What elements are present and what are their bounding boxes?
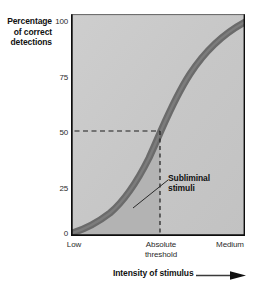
y-tick-label-100: 100 bbox=[50, 18, 68, 26]
x-tick-label-absolute-threshold-line-1: Absolute bbox=[131, 240, 191, 250]
y-tick-label-0: 0 bbox=[50, 230, 68, 238]
y-axis-title-line-2: of correct bbox=[0, 27, 52, 38]
x-tick-label-absolute-threshold-line-2: threshold bbox=[131, 250, 191, 260]
x-axis-caption: Intensity of stimulus bbox=[113, 268, 194, 278]
y-tick-label-25: 25 bbox=[50, 185, 68, 193]
psychometric-function-figure: Percentage of correct detections 100 75 … bbox=[0, 0, 259, 288]
plot-area bbox=[71, 14, 245, 236]
y-tick-label-50: 50 bbox=[50, 129, 68, 137]
x-tick-label-medium: Medium bbox=[208, 240, 252, 250]
subliminal-stimuli-line-1: Subliminal bbox=[168, 173, 210, 183]
subliminal-stimuli-line-2: stimuli bbox=[168, 183, 210, 193]
x-tick-label-low: Low bbox=[56, 240, 92, 250]
subliminal-stimuli-annotation: Subliminal stimuli bbox=[168, 173, 210, 193]
y-axis-title-line-3: detections bbox=[0, 37, 52, 48]
y-axis-title-line-1: Percentage bbox=[0, 16, 52, 27]
y-tick-label-75: 75 bbox=[50, 74, 68, 82]
y-axis-title: Percentage of correct detections bbox=[0, 16, 52, 48]
x-tick-label-absolute-threshold: Absolute threshold bbox=[131, 240, 191, 259]
x-axis-arrow-icon bbox=[196, 271, 248, 280]
